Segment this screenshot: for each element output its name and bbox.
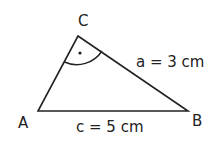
side-a-label: a = 3 cm xyxy=(136,55,204,70)
triangle-abc xyxy=(38,36,188,111)
side-c-label: c = 5 cm xyxy=(76,120,144,135)
vertex-label-c: C xyxy=(78,14,88,29)
vertex-label-a: A xyxy=(18,116,28,131)
right-angle-arc xyxy=(65,51,103,65)
vertex-label-b: B xyxy=(192,114,202,129)
right-angle-dot xyxy=(78,51,81,54)
